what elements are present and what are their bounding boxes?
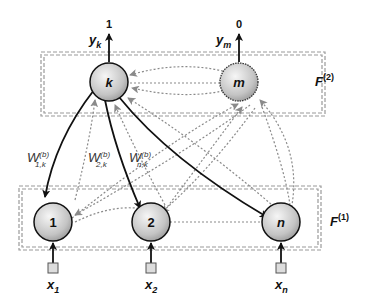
input-1: x1: [46, 243, 59, 295]
output-label-k: yk: [88, 32, 102, 50]
input-label-n: xn: [274, 277, 288, 295]
node-2-label: 2: [147, 215, 154, 230]
node-k: k: [90, 63, 128, 101]
node-m-label: m: [233, 75, 245, 90]
input-label-2: x2: [144, 277, 157, 295]
node-n: n: [262, 203, 300, 241]
node-1: 1: [34, 203, 72, 241]
art-network-diagram: 1 0 yk ym k m 1 2 n x1 x2 xn W(b)1,k W(: [0, 0, 366, 308]
layer-f2-box: [41, 52, 325, 116]
node-m: m: [220, 63, 258, 101]
node-n-label: n: [277, 215, 285, 230]
edge-n-m: [260, 100, 294, 215]
weight-label-1k: W(b)1,k: [27, 150, 49, 169]
input-n: xn: [274, 243, 288, 295]
edge-m-k-upper: [130, 67, 227, 75]
node-k-label: k: [105, 75, 113, 90]
output-label-m: ym: [215, 32, 231, 50]
node-2: 2: [132, 203, 170, 241]
output-value-m: 0: [236, 18, 242, 30]
edge-m-2: [162, 108, 255, 212]
weight-label-2k: W(b)2,k: [88, 150, 110, 169]
input-square-n: [276, 263, 286, 273]
input-label-1: x1: [46, 277, 59, 295]
output-value-k: 1: [106, 18, 112, 30]
weight-label-nk: W(b)n,k: [129, 150, 151, 169]
input-square-2: [146, 263, 156, 273]
edge-m-k-lower: [132, 88, 227, 95]
solid-edges: [45, 90, 267, 217]
input-square-1: [48, 263, 58, 273]
input-2: x2: [144, 243, 157, 295]
layer-label-f1: F(1): [330, 212, 349, 229]
node-1-label: 1: [49, 215, 56, 230]
edge-k-1: [45, 90, 94, 197]
